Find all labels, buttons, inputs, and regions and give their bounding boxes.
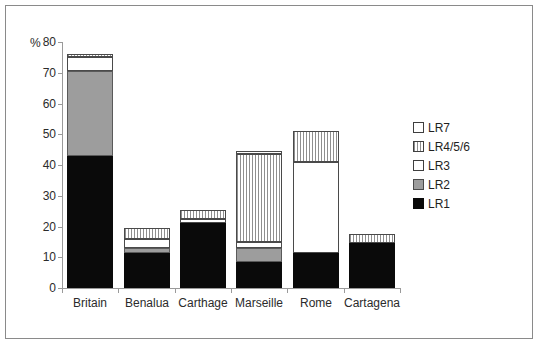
y-axis-tick-label: 30: [30, 190, 56, 202]
bar-segment[interactable]: [67, 156, 113, 288]
bar-segment[interactable]: [67, 57, 113, 71]
bar-segment[interactable]: [180, 210, 226, 219]
y-axis-tick-mark: [58, 73, 62, 74]
bar-stack[interactable]: [293, 42, 339, 288]
bar-segment[interactable]: [67, 71, 113, 156]
y-axis-tick-label: 80: [30, 36, 56, 48]
legend-item[interactable]: LR7: [413, 118, 499, 137]
bar-segment[interactable]: [293, 162, 339, 253]
y-axis-tick-label: 20: [30, 221, 56, 233]
y-axis-tick-mark: [58, 134, 62, 135]
chart-legend: LR7LR4/5/6LR3LR2LR1: [413, 118, 499, 213]
legend-swatch-icon: [413, 198, 424, 209]
legend-swatch-icon: [413, 122, 424, 133]
bar-segment[interactable]: [236, 262, 282, 288]
y-axis-tick-group: 80706050403020100: [22, 0, 56, 346]
legend-item[interactable]: LR4/5/6: [413, 137, 499, 156]
bar-segment[interactable]: [293, 131, 339, 162]
y-axis-tick-mark: [58, 42, 62, 43]
chart-page: % 80706050403020100 LR7LR4/5/6LR3LR2LR1 …: [0, 0, 540, 346]
bar-segment[interactable]: [124, 248, 170, 253]
legend-item-label: LR4/5/6: [428, 140, 470, 154]
y-axis-tick-label: 50: [30, 128, 56, 140]
x-axis-tick-mark: [231, 289, 232, 293]
y-axis-tick-label: 60: [30, 98, 56, 110]
y-axis-tick-label: 70: [30, 67, 56, 79]
y-axis-tick-mark: [58, 165, 62, 166]
y-axis-tick-mark: [58, 227, 62, 228]
x-axis-tick-mark: [287, 289, 288, 293]
bar-segment[interactable]: [124, 239, 170, 248]
bar-stack[interactable]: [349, 42, 395, 288]
x-axis-tick-mark: [62, 289, 63, 293]
legend-item[interactable]: LR3: [413, 156, 499, 175]
bar-segment[interactable]: [349, 234, 395, 243]
bar-segment[interactable]: [236, 248, 282, 262]
legend-item-label: LR1: [428, 197, 450, 211]
legend-item-label: LR2: [428, 178, 450, 192]
bar-segment[interactable]: [349, 243, 395, 288]
legend-swatch-icon: [413, 141, 424, 152]
bar-segment[interactable]: [236, 154, 282, 242]
y-axis-tick-mark: [58, 257, 62, 258]
legend-item[interactable]: LR2: [413, 175, 499, 194]
legend-swatch-icon: [413, 160, 424, 171]
bar-segment[interactable]: [236, 242, 282, 248]
x-axis-tick-mark: [344, 289, 345, 293]
bar-segment[interactable]: [236, 151, 282, 154]
bar-stack[interactable]: [180, 42, 226, 288]
y-axis-tick-label: 10: [30, 251, 56, 263]
bar-segment[interactable]: [180, 223, 226, 288]
bar-segment[interactable]: [67, 54, 113, 57]
bar-segment[interactable]: [124, 228, 170, 239]
legend-item-label: LR7: [428, 121, 450, 135]
y-axis-tick-mark: [58, 196, 62, 197]
bar-stack[interactable]: [67, 42, 113, 288]
y-axis-tick-label: 40: [30, 159, 56, 171]
y-axis-tick-mark: [58, 104, 62, 105]
bar-stack[interactable]: [124, 42, 170, 288]
x-axis-tick-mark: [400, 289, 401, 293]
legend-swatch-icon: [413, 179, 424, 190]
x-axis-tick-mark: [175, 289, 176, 293]
bar-segment[interactable]: [180, 219, 226, 224]
legend-item[interactable]: LR1: [413, 194, 499, 213]
bar-stack[interactable]: [236, 42, 282, 288]
x-axis-tick-mark: [118, 289, 119, 293]
legend-item-label: LR3: [428, 159, 450, 173]
y-axis-tick-label: 0: [30, 282, 56, 294]
x-axis-category-label: Cartagena: [332, 296, 412, 310]
bar-segment[interactable]: [124, 253, 170, 288]
bar-segment[interactable]: [293, 253, 339, 288]
